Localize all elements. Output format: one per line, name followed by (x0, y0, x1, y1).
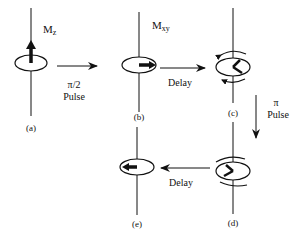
transition-pi2-pulse: π/2 Pulse (57, 66, 97, 102)
delay-label: Delay (169, 177, 193, 188)
spin-echo-diagram: Mz (a) π/2 Pulse Mxy (b) Delay (c) π Pul… (0, 0, 303, 239)
stage-e: (e) (120, 127, 154, 229)
pi-half-label: π/2 (68, 79, 81, 90)
stage-label-e: (e) (132, 219, 142, 229)
stage-d: (d) (216, 157, 250, 228)
pi-label: π (273, 97, 278, 108)
stage-label-a: (a) (26, 123, 36, 133)
delay-label: Delay (168, 77, 192, 88)
transition-delay-1: Delay (160, 68, 205, 88)
rotation-arrow-icon (216, 157, 245, 162)
transition-delay-2: Delay (161, 168, 210, 188)
stage-label-d: (d) (228, 218, 239, 228)
stage-label-c: (c) (228, 108, 238, 118)
stage-c: (c) (216, 8, 250, 162)
mxy-label: Mxy (152, 19, 170, 33)
stage-label-b: (b) (134, 112, 145, 122)
stage-b: Mxy (b) (122, 12, 170, 122)
mz-label: Mz (43, 23, 57, 37)
transition-pi-pulse: π Pulse (256, 95, 289, 138)
pulse-label: Pulse (267, 109, 289, 120)
pulse-label: Pulse (63, 91, 85, 102)
stage-a: Mz (a) (15, 8, 57, 133)
